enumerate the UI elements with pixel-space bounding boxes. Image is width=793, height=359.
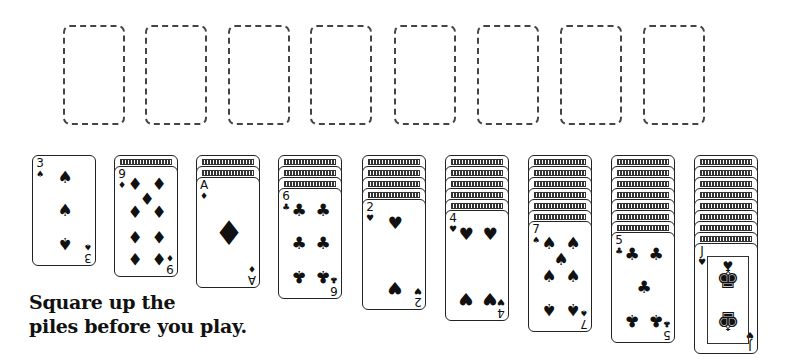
card-back-pattern — [700, 192, 752, 198]
card-back-pattern — [451, 159, 503, 165]
clubs-pip-icon: ♣ — [623, 312, 641, 329]
card-back-pattern — [451, 181, 503, 187]
card-index-top-left: J♥ — [697, 246, 707, 268]
clubs-pip-icon: ♣ — [647, 246, 665, 263]
card-rank: 6 — [281, 191, 291, 202]
hearts-pip-icon: ♥ — [481, 226, 499, 243]
diamonds-pip-icon: ♦ — [150, 204, 168, 221]
card-back-pattern — [700, 203, 752, 209]
spades-pip-icon: ♠ — [56, 169, 74, 186]
foundation-slot-5[interactable] — [394, 25, 456, 125]
card-rank: A — [247, 274, 257, 285]
card-back-pattern — [284, 170, 336, 176]
foundation-slot-6[interactable] — [477, 25, 539, 125]
diamonds-icon: ♦ — [199, 191, 209, 202]
spades-pip-icon: ♠ — [564, 301, 582, 318]
card-back-pattern — [700, 170, 752, 176]
instruction-caption: Square up the piles before you play. — [29, 290, 247, 338]
card-back-pattern — [534, 181, 586, 187]
diamonds-pip-icon: ♦ — [150, 228, 168, 245]
card-index-top-left: A♦ — [199, 180, 209, 202]
card-back-pattern — [617, 203, 669, 209]
foundation-slot-7[interactable] — [560, 25, 622, 125]
hearts-pip-icon: ♥ — [386, 279, 404, 296]
clubs-pip-icon: ♣ — [623, 246, 641, 263]
caption-line-1: Square up the — [29, 290, 247, 314]
card-rank: 2 — [413, 296, 423, 307]
card-back-pattern — [534, 192, 586, 198]
card-back-pattern — [700, 159, 752, 165]
diamonds-pip-icon: ♦ — [126, 204, 144, 221]
card-back-pattern — [368, 159, 420, 165]
hearts-pip-icon: ♥ — [481, 290, 499, 307]
card-back-pattern — [617, 225, 669, 231]
hearts-icon: ♥ — [365, 213, 375, 224]
card-back-pattern — [368, 192, 420, 198]
hearts-pip-icon: ♥ — [457, 226, 475, 243]
card-rank: 2 — [365, 202, 375, 213]
card-back-pattern — [284, 159, 336, 165]
foundation-slot-3[interactable] — [228, 25, 290, 125]
card-5-of-clubs[interactable]: 5♣5♣♣♣♣♣♣ — [611, 232, 675, 343]
card-index-bottom-right: 2♥ — [413, 285, 423, 307]
card-back-pattern — [700, 214, 752, 220]
spades-pip-icon: ♠ — [540, 268, 558, 285]
card-9-of-diamonds[interactable]: 9♦9♦♦♦♦♦♦♦♦♦♦ — [114, 166, 178, 277]
card-back-pattern — [700, 225, 752, 231]
foundation-slot-8[interactable] — [643, 25, 705, 125]
clubs-pip-icon: ♣ — [314, 268, 332, 285]
card-6-of-clubs[interactable]: 6♣6♣♣♣♣♣♣♣ — [278, 188, 342, 299]
card-back-pattern — [617, 192, 669, 198]
card-back-pattern — [451, 192, 503, 198]
spades-pip-icon: ♠ — [564, 268, 582, 285]
card-back-pattern — [534, 214, 586, 220]
card-back-pattern — [617, 170, 669, 176]
card-back-pattern — [284, 181, 336, 187]
card-back-pattern — [368, 170, 420, 176]
card-index-bottom-right: A♦ — [247, 263, 257, 285]
card-back-pattern — [700, 181, 752, 187]
clubs-pip-icon: ♣ — [314, 202, 332, 219]
card-rank: 7 — [531, 224, 541, 235]
foundation-slot-4[interactable] — [310, 25, 372, 125]
card-j-of-hearts[interactable]: J♥J♥♚♚♥ — [694, 243, 758, 354]
card-4-of-hearts[interactable]: 4♥4♥♥♥♥♥ — [445, 210, 509, 321]
card-rank: J — [697, 246, 707, 257]
card-back-pattern — [202, 170, 254, 176]
card-rank: A — [199, 180, 209, 191]
hearts-pip-icon: ♥ — [457, 290, 475, 307]
diamonds-pip-icon: ♦ — [212, 216, 246, 250]
card-back-pattern — [534, 159, 586, 165]
diamonds-pip-icon: ♦ — [126, 228, 144, 245]
clubs-pip-icon: ♣ — [635, 279, 653, 296]
card-back-pattern — [617, 159, 669, 165]
card-rank: 3 — [83, 252, 93, 263]
card-7-of-spades[interactable]: 7♠7♠♠♠♠♠♠♠♠ — [528, 221, 592, 332]
hearts-icon: ♥ — [719, 258, 737, 275]
diamonds-pip-icon: ♦ — [150, 250, 168, 267]
card-back-pattern — [617, 181, 669, 187]
caption-line-2: piles before you play. — [29, 314, 247, 338]
foundation-slot-2[interactable] — [145, 25, 207, 125]
card-index-top-left: 3♠ — [35, 158, 45, 180]
hearts-pip-icon: ♥ — [386, 215, 404, 232]
card-back-pattern — [534, 170, 586, 176]
clubs-pip-icon: ♣ — [290, 202, 308, 219]
spades-pip-icon: ♠ — [540, 301, 558, 318]
spades-icon: ♠ — [83, 241, 93, 252]
foundation-slot-1[interactable] — [63, 25, 125, 125]
card-3-of-spades[interactable]: 3♠3♠♠♠♠ — [32, 155, 96, 266]
card-back-pattern — [700, 236, 752, 242]
clubs-pip-icon: ♣ — [290, 268, 308, 285]
clubs-pip-icon: ♣ — [647, 312, 665, 329]
card-2-of-hearts[interactable]: 2♥2♥♥♥ — [362, 199, 426, 310]
card-back-pattern — [534, 203, 586, 209]
card-rank: 5 — [614, 235, 624, 246]
card-back-pattern — [120, 159, 172, 165]
spades-pip-icon: ♠ — [56, 202, 74, 219]
diamonds-pip-icon: ♦ — [126, 250, 144, 267]
card-back-pattern — [451, 203, 503, 209]
spades-pip-icon: ♠ — [56, 235, 74, 252]
card-a-of-diamonds[interactable]: A♦A♦♦ — [196, 177, 260, 288]
hearts-icon: ♥ — [697, 257, 707, 268]
